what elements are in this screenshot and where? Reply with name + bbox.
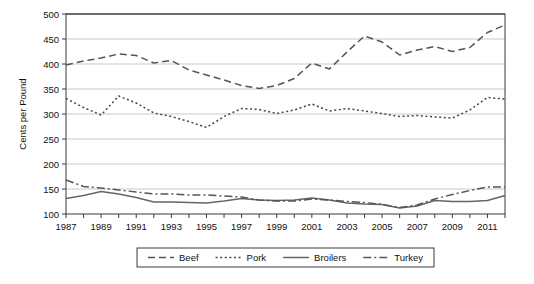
x-tick-label-2001: 2001 xyxy=(301,221,322,232)
x-tick-label-2003: 2003 xyxy=(336,221,357,232)
y-tick-label-150: 150 xyxy=(43,184,59,195)
y-tick-label-250: 250 xyxy=(43,134,59,145)
x-tick-label-2007: 2007 xyxy=(407,221,428,232)
legend-label-beef: Beef xyxy=(179,252,199,263)
y-tick-label-450: 450 xyxy=(43,34,59,45)
chart-background xyxy=(0,0,534,284)
legend-label-turkey: Turkey xyxy=(394,252,423,263)
line-chart: 100150200250300350400450500 198719891991… xyxy=(0,0,534,284)
x-tick-label-1987: 1987 xyxy=(55,221,76,232)
x-tick-label-1995: 1995 xyxy=(196,221,217,232)
legend-label-pork: Pork xyxy=(247,252,267,263)
x-tick-label-2009: 2009 xyxy=(442,221,463,232)
legend-label-broilers: Broilers xyxy=(314,252,346,263)
x-tick-label-1989: 1989 xyxy=(91,221,112,232)
x-tick-label-1991: 1991 xyxy=(126,221,147,232)
y-axis-tick-labels: 100150200250300350400450500 xyxy=(43,9,59,220)
chart-legend: BeefPorkBroilersTurkey xyxy=(137,248,434,267)
y-tick-label-350: 350 xyxy=(43,84,59,95)
y-tick-label-400: 400 xyxy=(43,59,59,70)
x-tick-label-2011: 2011 xyxy=(477,221,497,232)
y-tick-label-100: 100 xyxy=(43,209,59,220)
x-tick-label-1993: 1993 xyxy=(161,221,182,232)
y-tick-label-500: 500 xyxy=(43,9,59,20)
y-tick-label-200: 200 xyxy=(43,159,59,170)
y-axis-title: Cents per Pound xyxy=(17,78,28,149)
chart-canvas: 100150200250300350400450500 198719891991… xyxy=(0,0,534,284)
x-tick-label-1999: 1999 xyxy=(266,221,287,232)
x-tick-label-1997: 1997 xyxy=(231,221,252,232)
x-tick-label-2005: 2005 xyxy=(372,221,393,232)
y-tick-label-300: 300 xyxy=(43,109,59,120)
